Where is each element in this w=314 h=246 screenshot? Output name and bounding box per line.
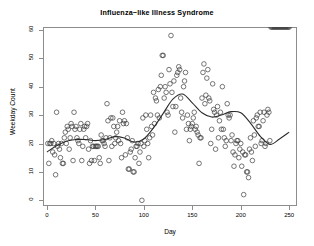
y-tick-mark	[39, 30, 43, 31]
data-point	[251, 118, 256, 123]
data-point	[206, 96, 211, 101]
y-axis-label: Weekday Count	[9, 77, 16, 147]
y-tick-mark	[39, 200, 43, 201]
data-point	[182, 79, 187, 84]
data-point	[137, 161, 142, 166]
data-point	[250, 158, 255, 163]
data-point	[143, 113, 148, 118]
data-point	[238, 141, 243, 146]
data-point	[72, 110, 77, 115]
data-point	[159, 73, 164, 78]
data-point	[114, 130, 119, 135]
data-point	[205, 76, 210, 81]
data-point	[217, 118, 222, 123]
y-tick-label: 50	[28, 50, 34, 64]
data-point	[232, 164, 237, 169]
x-tick-mark	[241, 206, 242, 210]
x-tick-mark	[144, 206, 145, 210]
y-tick-label: 40	[28, 79, 34, 93]
data-point	[141, 116, 146, 121]
data-point	[253, 144, 258, 149]
data-point	[169, 33, 174, 38]
y-tick-mark	[39, 115, 43, 116]
data-point	[138, 150, 143, 155]
data-point	[153, 96, 158, 101]
data-point	[213, 147, 218, 152]
y-tick-label: 30	[28, 107, 34, 121]
data-point	[63, 130, 68, 135]
data-point	[261, 118, 266, 123]
data-point	[268, 138, 273, 143]
data-point	[106, 118, 111, 123]
data-point	[215, 104, 220, 109]
data-point	[107, 158, 112, 163]
data-point	[208, 141, 213, 146]
data-point	[162, 96, 167, 101]
data-point	[187, 138, 192, 143]
x-tick-mark	[95, 206, 96, 210]
data-point	[123, 153, 128, 158]
data-point	[230, 133, 235, 138]
data-point	[216, 136, 221, 141]
x-tick-mark	[47, 206, 48, 210]
y-tick-label: 10	[28, 164, 34, 178]
y-tick-mark	[39, 144, 43, 145]
data-point	[180, 116, 185, 121]
data-point	[239, 164, 244, 169]
data-point	[266, 107, 271, 112]
data-point	[254, 116, 259, 121]
data-point	[164, 90, 169, 95]
data-point	[68, 136, 73, 141]
data-point	[192, 110, 197, 115]
data-point	[163, 84, 168, 89]
data-point	[206, 67, 211, 72]
data-point	[98, 161, 103, 166]
y-tick-mark	[39, 58, 43, 59]
data-point	[67, 147, 72, 152]
data-point	[71, 158, 76, 163]
data-point	[105, 101, 110, 106]
data-point	[150, 133, 155, 138]
chart-title: Influenza−like Illness Syndrome	[0, 8, 314, 17]
data-point	[62, 136, 67, 141]
data-point	[92, 158, 97, 163]
data-point	[166, 113, 171, 118]
data-point	[133, 155, 138, 160]
data-point	[154, 99, 159, 104]
data-point	[194, 124, 199, 129]
data-point	[207, 99, 212, 104]
data-point	[148, 113, 153, 118]
y-tick-mark	[39, 172, 43, 173]
data-point	[173, 130, 178, 135]
data-point	[263, 144, 268, 149]
data-point	[144, 127, 149, 132]
data-point	[223, 144, 228, 149]
data-point	[227, 116, 232, 121]
data-point	[203, 101, 208, 106]
data-point	[174, 104, 179, 109]
data-point	[238, 147, 243, 152]
data-point	[170, 90, 175, 95]
data-point	[69, 121, 74, 126]
data-point	[103, 144, 108, 149]
data-point	[218, 110, 223, 115]
x-tick-label: 200	[231, 212, 251, 218]
data-point	[140, 198, 145, 203]
data-point	[197, 161, 202, 166]
data-point	[145, 141, 150, 146]
data-point	[220, 84, 225, 89]
x-tick-mark	[289, 206, 290, 210]
data-point	[97, 155, 102, 160]
data-point	[176, 64, 181, 69]
x-tick-label: 150	[182, 212, 202, 218]
x-tick-label: 0	[37, 212, 57, 218]
data-point	[181, 84, 186, 89]
data-point	[172, 79, 177, 84]
chart-figure: Influenza−like Illness Syndrome 01020304…	[0, 0, 314, 246]
data-point	[201, 70, 206, 75]
data-point	[210, 82, 215, 87]
data-point	[151, 90, 156, 95]
data-point	[237, 155, 242, 160]
data-point	[174, 73, 179, 78]
data-point	[167, 67, 172, 72]
